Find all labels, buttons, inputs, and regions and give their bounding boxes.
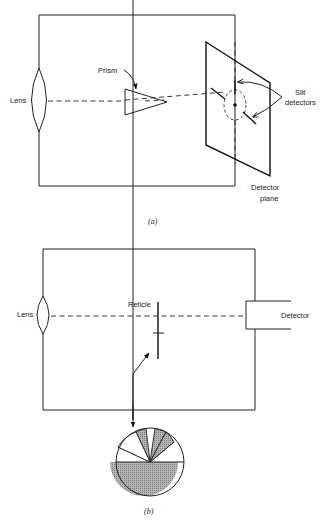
detector-plane — [206, 42, 270, 176]
housing-b — [43, 249, 255, 301]
figure-b: Lens Detector Reticle (b) — [17, 0, 310, 516]
slit-detectors-label-2: detectors — [285, 98, 316, 107]
lens-label-b: Lens — [17, 310, 34, 319]
lens-a-icon — [32, 68, 47, 132]
prism-icon — [125, 89, 167, 115]
slit-pointer-upper — [238, 82, 282, 97]
prism-pointer-arrow — [124, 70, 136, 89]
detector-plane-label-1: Detector — [251, 183, 280, 192]
caption-a: (a) — [148, 217, 158, 226]
center-dot — [233, 103, 237, 107]
lens-label-a: Lens — [10, 96, 27, 105]
slit-pointer-lower — [253, 97, 282, 117]
diagram-canvas: Prism Lens Slit detectors Detector plane… — [0, 0, 325, 524]
detector-plane-label-2: plane — [260, 194, 278, 203]
reticle-label: Reticle — [128, 300, 151, 309]
lens-b-icon — [37, 296, 49, 334]
reticle-detail-disc — [110, 428, 184, 496]
slit-detector-upper-diag — [211, 88, 225, 99]
housing-b-lower — [43, 329, 255, 410]
slit-detectors-label-1: Slit — [295, 88, 306, 97]
detector-label: Detector — [281, 311, 310, 320]
prism-label: Prism — [98, 66, 117, 75]
slit-detector-lower-diag — [243, 112, 256, 124]
figure-a: Prism Lens Slit detectors Detector plane… — [10, 15, 316, 226]
caption-b: (b) — [144, 507, 154, 516]
